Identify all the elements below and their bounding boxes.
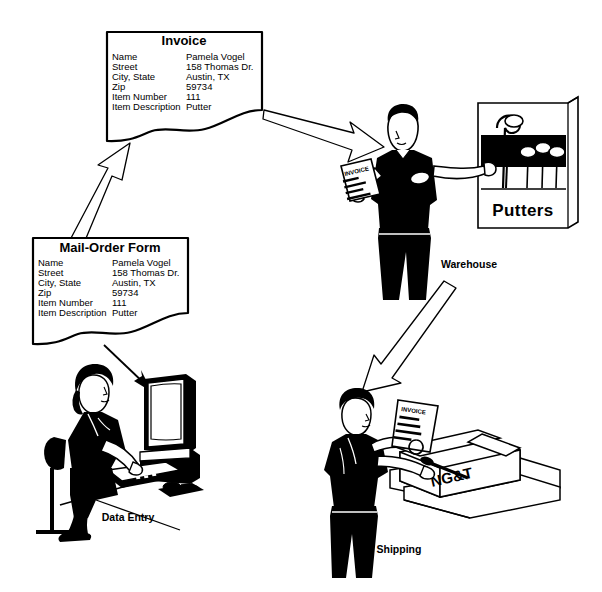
shipping-scene[interactable]: NG&T INVOICE <box>0 0 602 592</box>
diagram-canvas: Invoice Name Pamela Vogel Street 158 Tho… <box>0 0 602 592</box>
shipping-held-invoice: INVOICE <box>392 400 438 454</box>
shipping-caption: Shipping <box>377 543 422 555</box>
